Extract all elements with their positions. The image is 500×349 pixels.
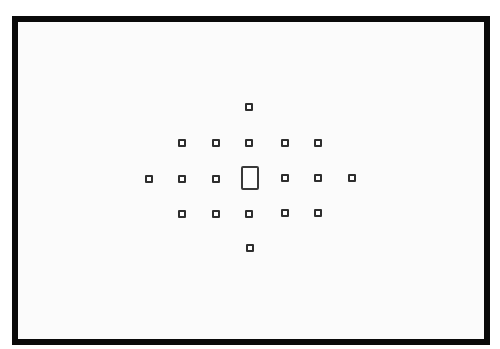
af-point-r2c4 [281, 174, 289, 182]
af-point-r3c1 [178, 210, 186, 218]
af-point-r3c4 [281, 209, 289, 217]
af-point-r3c3 [245, 210, 253, 218]
af-point-r1c3 [245, 139, 253, 147]
af-point-r1c1 [178, 139, 186, 147]
af-point-bottom [246, 244, 254, 252]
af-point-r3c2 [212, 210, 220, 218]
af-point-r3c5 [314, 209, 322, 217]
af-point-r2c5 [314, 174, 322, 182]
af-point-r2c2 [212, 175, 220, 183]
af-point-r2c0 [145, 175, 153, 183]
af-point-r1c4 [281, 139, 289, 147]
af-point-r1c5 [314, 139, 322, 147]
af-point-r2c6 [348, 174, 356, 182]
af-point-top [245, 103, 253, 111]
af-point-r2c1 [178, 175, 186, 183]
af-point-center [241, 166, 259, 190]
af-point-r1c2 [212, 139, 220, 147]
